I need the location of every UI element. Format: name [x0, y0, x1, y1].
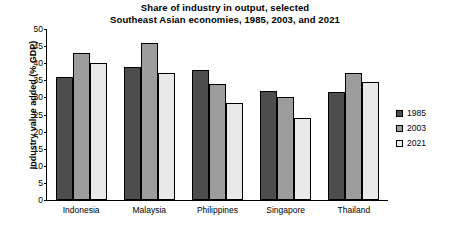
legend-swatch-icon — [396, 125, 403, 132]
y-tick-mark — [44, 29, 47, 30]
y-tick-mark — [44, 97, 47, 98]
bar-group — [124, 29, 175, 200]
bar-group — [328, 29, 379, 200]
chart-title: Share of industry in output, selected So… — [60, 2, 390, 25]
y-tick-mark — [44, 80, 47, 81]
bar — [158, 73, 175, 200]
bar — [328, 92, 345, 200]
legend-label: 2003 — [407, 124, 426, 133]
legend-item: 1985 — [396, 106, 448, 121]
y-tick-mark — [44, 115, 47, 116]
y-tick-label: 0 — [23, 196, 43, 205]
x-axis-line — [46, 200, 388, 201]
y-tick-label: 30 — [23, 93, 43, 102]
legend-swatch-icon — [396, 140, 403, 147]
y-tick-label: 10 — [23, 162, 43, 171]
y-tick-label: 50 — [23, 25, 43, 34]
bar — [260, 91, 277, 200]
y-tick-mark — [44, 166, 47, 167]
bar — [294, 118, 311, 200]
y-tick-label: 35 — [23, 76, 43, 85]
bar — [73, 53, 90, 200]
legend-item: 2003 — [396, 121, 448, 136]
legend-label: 2021 — [407, 139, 426, 148]
bar — [277, 97, 294, 200]
y-tick-label: 15 — [23, 144, 43, 153]
y-tick-label: 5 — [23, 179, 43, 188]
bar — [56, 77, 73, 200]
bar — [209, 84, 226, 200]
x-axis-label: Thailand — [309, 205, 399, 215]
y-tick-label: 25 — [23, 110, 43, 119]
legend-label: 1985 — [407, 109, 426, 118]
chart-title-line-1: Share of industry in output, selected — [60, 2, 390, 14]
y-tick-mark — [44, 132, 47, 133]
y-tick-label: 40 — [23, 59, 43, 68]
chart-title-line-2: Southeast Asian economies, 1985, 2003, a… — [60, 14, 390, 26]
y-tick-mark — [44, 149, 47, 150]
bar — [226, 103, 243, 200]
bar — [141, 43, 158, 200]
y-tick-label: 45 — [23, 42, 43, 51]
legend-item: 2021 — [396, 136, 448, 151]
bar — [124, 67, 141, 200]
y-tick-label: 20 — [23, 127, 43, 136]
bar — [345, 73, 362, 200]
legend-swatch-icon — [396, 110, 403, 117]
legend: 198520032021 — [396, 106, 448, 151]
bar — [362, 82, 379, 200]
bar — [192, 70, 209, 200]
bar-chart-figure: Share of industry in output, selected So… — [0, 0, 450, 243]
bar — [90, 63, 107, 200]
bar-group — [260, 29, 311, 200]
bar-group — [192, 29, 243, 200]
y-tick-mark — [44, 46, 47, 47]
bar-group — [56, 29, 107, 200]
y-tick-mark — [44, 63, 47, 64]
y-tick-mark — [44, 183, 47, 184]
plot-area: 05101520253035404550 IndonesiaMalaysiaPh… — [47, 29, 388, 200]
y-tick-mark — [44, 200, 47, 201]
